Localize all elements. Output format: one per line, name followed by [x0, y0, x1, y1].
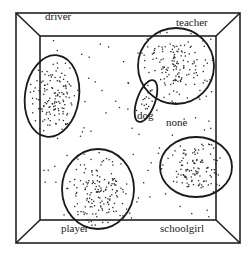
data-point — [89, 198, 90, 199]
data-point — [123, 61, 124, 62]
data-point — [199, 175, 200, 176]
data-point — [152, 53, 153, 54]
data-point — [148, 98, 149, 99]
data-point — [46, 89, 47, 90]
data-point — [174, 60, 175, 61]
data-point — [103, 191, 104, 192]
data-point — [60, 77, 61, 78]
data-point — [187, 186, 188, 187]
data-point — [208, 184, 209, 185]
data-point — [163, 58, 164, 59]
data-point — [195, 65, 196, 66]
data-point — [176, 177, 177, 178]
data-point — [50, 114, 51, 115]
data-point — [119, 215, 120, 216]
data-point — [199, 99, 200, 100]
data-point — [114, 178, 115, 179]
data-point — [65, 96, 66, 97]
data-point — [197, 153, 198, 154]
data-point — [30, 84, 31, 85]
data-point — [210, 154, 211, 155]
data-point — [100, 44, 101, 45]
data-point — [48, 118, 49, 119]
data-point — [67, 123, 68, 124]
data-point — [144, 55, 145, 56]
data-point — [208, 121, 209, 122]
data-point — [76, 192, 77, 193]
data-point — [162, 49, 163, 50]
data-point — [149, 196, 150, 197]
data-point — [107, 201, 108, 202]
data-point — [207, 63, 208, 64]
data-point — [185, 154, 186, 155]
data-point — [186, 178, 187, 179]
data-point — [201, 184, 202, 185]
data-point — [173, 181, 174, 182]
data-point — [92, 183, 93, 184]
data-point — [40, 108, 41, 109]
data-point — [63, 120, 64, 121]
data-point — [210, 128, 211, 129]
data-point — [133, 154, 134, 155]
data-point — [58, 108, 59, 109]
data-point — [66, 188, 67, 189]
data-point — [67, 81, 68, 82]
data-point — [198, 180, 199, 181]
data-point — [176, 51, 177, 52]
data-point — [61, 129, 62, 130]
unclustered-label-none: none — [166, 117, 187, 128]
data-point — [94, 183, 95, 184]
data-point — [109, 200, 110, 201]
data-point — [206, 96, 207, 97]
data-point — [47, 101, 48, 102]
data-point — [162, 164, 163, 165]
data-point — [206, 180, 207, 181]
data-point — [70, 85, 71, 86]
data-point — [203, 71, 204, 72]
data-point — [57, 67, 58, 68]
data-point — [59, 113, 60, 114]
data-point — [113, 211, 114, 212]
data-point — [100, 202, 101, 203]
data-point — [44, 88, 45, 89]
data-point — [177, 81, 178, 82]
data-point — [163, 67, 164, 68]
data-point — [77, 90, 78, 91]
data-point — [109, 209, 110, 210]
data-point — [59, 96, 60, 97]
data-point — [35, 120, 36, 121]
data-point — [116, 195, 117, 196]
data-point — [217, 160, 218, 161]
data-point — [177, 74, 178, 75]
data-point — [100, 206, 101, 207]
data-point — [173, 80, 174, 81]
data-point — [92, 180, 93, 181]
data-point — [48, 75, 49, 76]
data-point — [208, 216, 209, 217]
data-point — [185, 84, 186, 85]
data-point — [82, 131, 83, 132]
data-point — [97, 170, 98, 171]
data-point — [98, 210, 99, 211]
data-point — [116, 181, 117, 182]
data-point — [182, 182, 183, 183]
data-point — [59, 119, 60, 120]
data-point — [50, 80, 51, 81]
data-point — [174, 57, 175, 58]
data-point — [151, 162, 152, 163]
data-point — [49, 98, 50, 99]
data-point — [108, 159, 109, 160]
data-point — [92, 174, 93, 175]
data-point — [144, 105, 145, 106]
data-point — [88, 201, 89, 202]
cluster-ellipse-schoolgirl — [160, 137, 232, 197]
data-point — [172, 60, 173, 61]
data-point — [93, 201, 94, 202]
corner-line-br — [216, 220, 240, 243]
data-point — [151, 89, 152, 90]
data-point — [99, 186, 100, 187]
data-point — [179, 69, 180, 70]
data-point — [176, 91, 177, 92]
data-point — [218, 174, 219, 175]
data-point — [181, 50, 182, 51]
